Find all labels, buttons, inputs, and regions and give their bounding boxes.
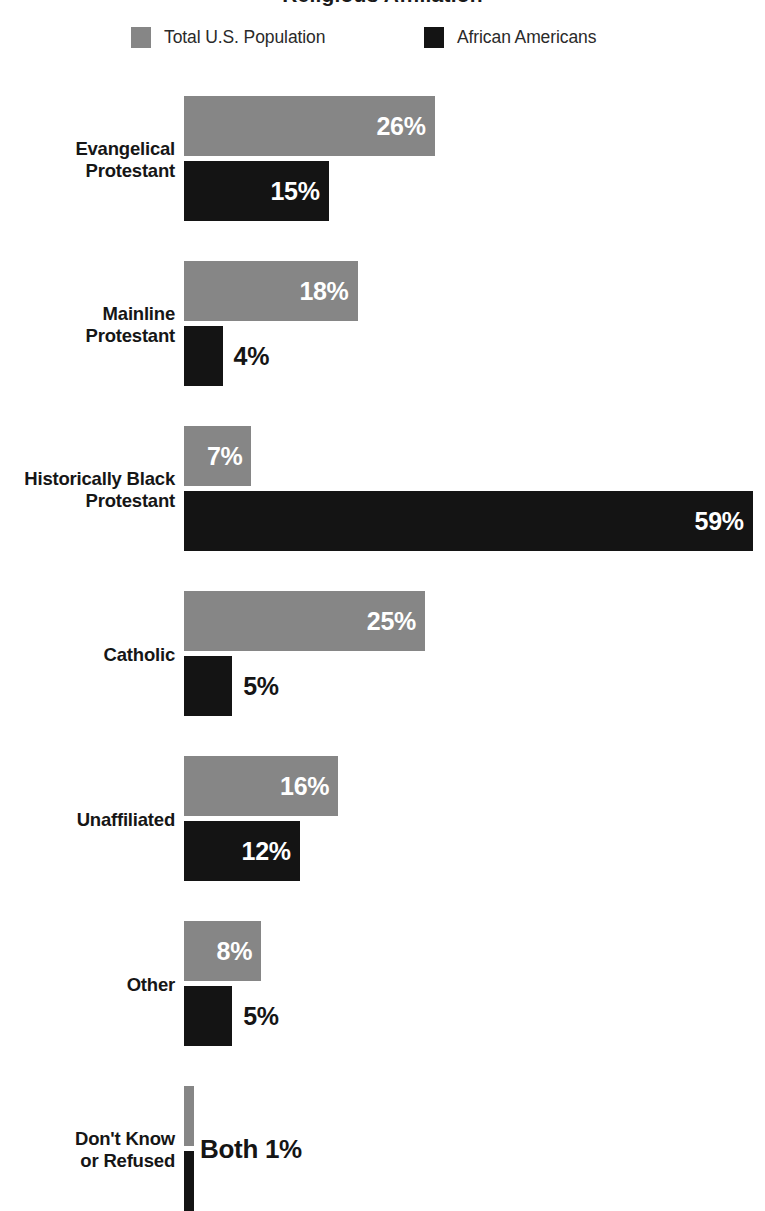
category-label-line: Other <box>127 974 175 995</box>
bar-total-population: 8% <box>184 921 261 981</box>
bar-value-label: 7% <box>207 444 252 469</box>
category-label-line: Protestant <box>86 325 176 346</box>
category-label: EvangelicalProtestant <box>0 138 175 181</box>
bar-row: 4% <box>184 326 765 386</box>
category-label-line: or Refused <box>80 1150 175 1171</box>
category-label-line: Protestant <box>86 490 176 511</box>
category-label-line: Historically Black <box>24 468 175 489</box>
bar-row: 25% <box>184 591 765 651</box>
bar-total-population: 25% <box>184 591 425 651</box>
bar-total-population <box>184 1086 194 1146</box>
bar-value-label: 18% <box>299 279 357 304</box>
category-label-line: Catholic <box>104 644 175 665</box>
bar-african-americans <box>184 656 232 716</box>
bar-row: 5% <box>184 656 765 716</box>
bar-value-label: 8% <box>217 939 262 964</box>
bar-african-americans: 12% <box>184 821 300 881</box>
category-label-line: Protestant <box>86 160 176 181</box>
category-label: Unaffiliated <box>0 809 175 831</box>
bar-row: 12% <box>184 821 765 881</box>
bar-total-population: 18% <box>184 261 358 321</box>
bar-total-population: 26% <box>184 96 435 156</box>
category-label: Catholic <box>0 644 175 666</box>
bar-row: 16% <box>184 756 765 816</box>
category-label-line: Don't Know <box>75 1128 175 1149</box>
category-label-line: Mainline <box>103 303 175 324</box>
bar-row: 15% <box>184 161 765 221</box>
bar-african-americans: 59% <box>184 491 753 551</box>
bar-value-label: 59% <box>695 509 753 534</box>
bar-value-label: 4% <box>223 344 270 369</box>
bar-african-americans: 15% <box>184 161 329 221</box>
bar-value-label: 5% <box>232 1004 279 1029</box>
category-label: MainlineProtestant <box>0 303 175 346</box>
category-label-line: Evangelical <box>75 138 175 159</box>
category-label-line: Unaffiliated <box>77 809 175 830</box>
bar-value-label: 5% <box>232 674 279 699</box>
bar-row: 7% <box>184 426 765 486</box>
category-label: Don't Knowor Refused <box>0 1128 175 1171</box>
bar-value-label: 26% <box>376 114 434 139</box>
combined-value-label: Both 1% <box>200 1134 302 1165</box>
bar-african-americans <box>184 326 223 386</box>
bar-group: MainlineProtestant18%4% <box>0 261 765 386</box>
bar-total-population: 7% <box>184 426 251 486</box>
bar-group: Don't Knowor RefusedBoth 1% <box>0 1086 765 1211</box>
bar-african-americans <box>184 986 232 1046</box>
bar-value-label: 16% <box>280 774 338 799</box>
bar-row: 5% <box>184 986 765 1046</box>
bar-row: 26% <box>184 96 765 156</box>
bar-group: Historically BlackProtestant7%59% <box>0 426 765 551</box>
bar-group: Catholic25%5% <box>0 591 765 716</box>
category-label: Other <box>0 974 175 996</box>
bar-value-label: 12% <box>242 839 300 864</box>
bar-group: Unaffiliated16%12% <box>0 756 765 881</box>
bar-row: 8% <box>184 921 765 981</box>
bar-total-population: 16% <box>184 756 338 816</box>
bar-african-americans <box>184 1151 194 1211</box>
bar-value-label: 25% <box>367 609 425 634</box>
bar-value-label: 15% <box>270 179 328 204</box>
bar-row: 18% <box>184 261 765 321</box>
category-label: Historically BlackProtestant <box>0 468 175 511</box>
bar-group: EvangelicalProtestant26%15% <box>0 96 765 221</box>
bar-group: Other8%5% <box>0 921 765 1046</box>
bar-row: 59% <box>184 491 765 551</box>
